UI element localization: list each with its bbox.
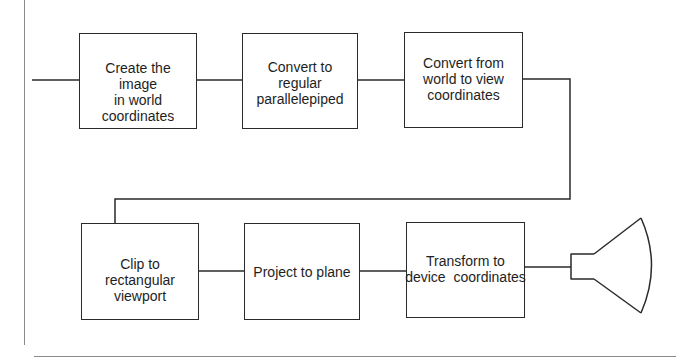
step-label: Convert from world to view coordinates — [423, 55, 504, 103]
step-project-plane: Project to plane — [244, 223, 360, 320]
step-convert-parallelepiped: Convert to regular parallelepiped — [242, 33, 358, 129]
step-clip-viewport: Clip to rectangular viewport — [81, 223, 199, 320]
step-create-image: Create the image in world coordinates — [79, 33, 197, 129]
step-transform-device: Transform to device coordinates — [406, 222, 525, 318]
crt-display-icon — [571, 218, 652, 313]
step-label: Create the image in world coordinates — [86, 60, 190, 124]
step-label: Clip to rectangular viewport — [88, 256, 192, 304]
step-world-to-view: Convert from world to view coordinates — [404, 32, 523, 128]
step-label: Convert to regular parallelepiped — [249, 59, 351, 107]
step-label: Transform to device coordinates — [405, 253, 526, 285]
step-label: Project to plane — [253, 264, 350, 280]
viewing-pipeline-diagram: Create the image in world coordinates Co… — [0, 0, 684, 360]
